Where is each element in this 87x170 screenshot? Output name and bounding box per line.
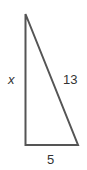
base-label: 5	[47, 153, 54, 166]
vertical-side-label: x	[8, 73, 15, 86]
hypotenuse-label: 13	[63, 73, 77, 86]
right-triangle-diagram: x 13 5	[0, 0, 87, 170]
